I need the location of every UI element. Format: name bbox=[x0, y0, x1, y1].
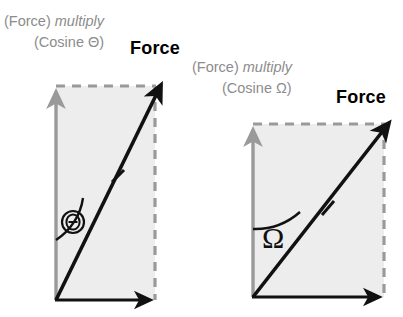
right-diagram: Ω bbox=[252, 123, 389, 297]
figure-canvas: (Force) multiply (Cosine Θ) Force (Force… bbox=[0, 0, 403, 317]
right-angle-symbol: Ω bbox=[262, 221, 284, 254]
vector-diagrams-svg: Ω bbox=[0, 0, 403, 317]
left-diagram bbox=[55, 85, 161, 300]
